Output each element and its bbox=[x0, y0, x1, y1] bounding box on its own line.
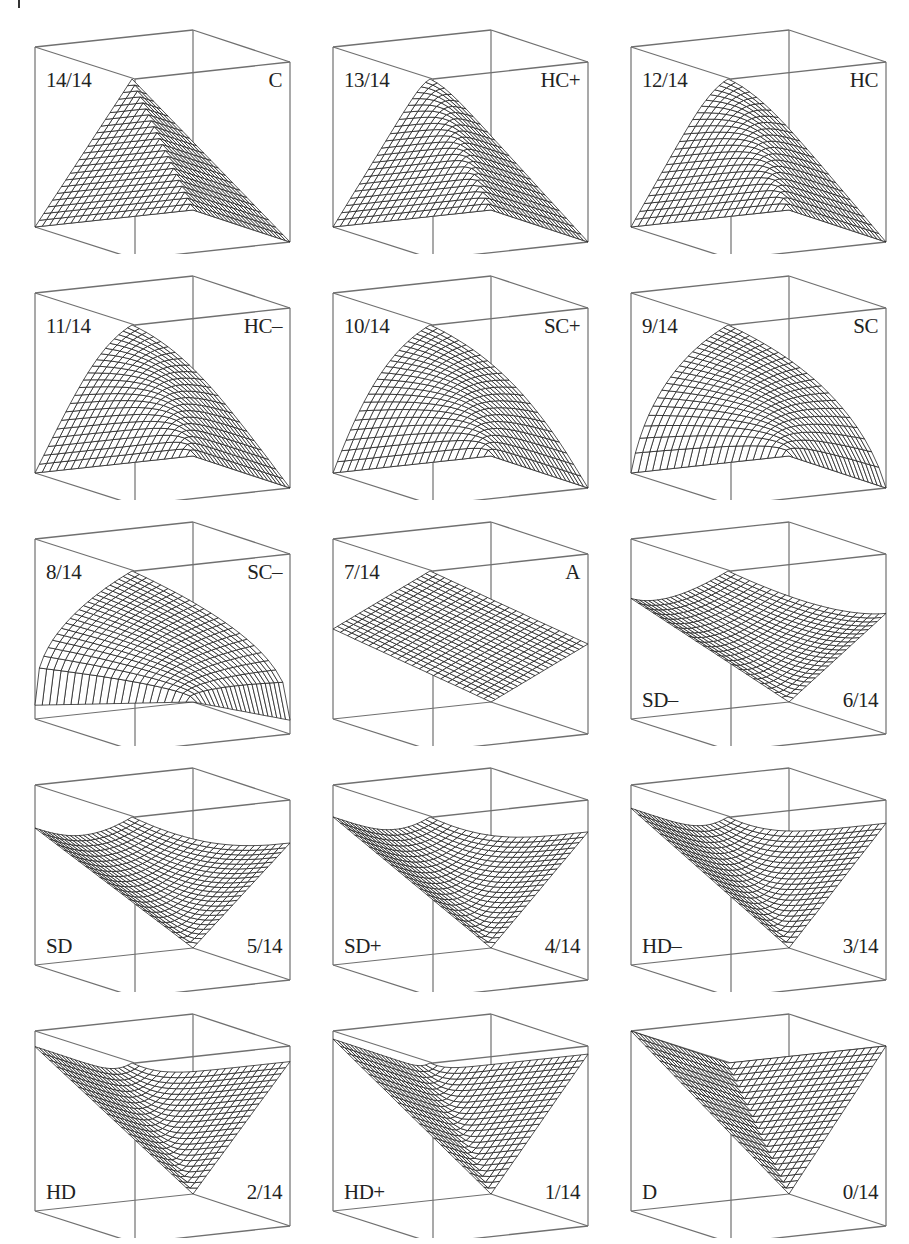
panel-name: SC bbox=[853, 316, 878, 337]
panel-name: HD bbox=[46, 1182, 75, 1203]
box-edge bbox=[631, 965, 731, 992]
box-edge bbox=[193, 522, 290, 554]
box-edge bbox=[333, 30, 491, 47]
surface-mesh bbox=[35, 1047, 290, 1194]
box-edge bbox=[35, 276, 193, 293]
surface-plot bbox=[306, 254, 604, 500]
panel-name: HC+ bbox=[540, 70, 580, 91]
box-edge bbox=[631, 30, 789, 47]
box-edge bbox=[491, 768, 588, 800]
surface-panel: 14/14C bbox=[8, 8, 306, 254]
surface-mesh bbox=[333, 1039, 588, 1194]
surface-panel: 8/14SC– bbox=[8, 500, 306, 746]
box-edge bbox=[35, 30, 193, 47]
panel-name: HC– bbox=[244, 316, 282, 337]
surface-panel: HD2/14 bbox=[8, 992, 306, 1238]
surface-plot bbox=[306, 8, 604, 254]
box-edge bbox=[631, 719, 731, 746]
panel-name: HD+ bbox=[344, 1182, 385, 1203]
surface-mesh bbox=[35, 817, 290, 948]
surface-mesh bbox=[35, 571, 290, 720]
surface-mesh bbox=[631, 571, 886, 702]
panel-name: HD– bbox=[642, 936, 681, 957]
panel-fraction: 4/14 bbox=[545, 936, 580, 957]
surface-panel: D0/14 bbox=[604, 992, 902, 1238]
surface-mesh bbox=[631, 325, 886, 488]
surface-plot bbox=[8, 500, 306, 746]
surface-panel: 10/14SC+ bbox=[306, 254, 604, 500]
box-edge bbox=[333, 1014, 491, 1031]
panel-fraction: 6/14 bbox=[843, 690, 878, 711]
box-edge bbox=[333, 1211, 433, 1238]
panel-fraction: 13/14 bbox=[344, 70, 389, 91]
surface-panel: HD–3/14 bbox=[604, 746, 902, 992]
panel-fraction: 10/14 bbox=[344, 316, 389, 337]
surface-mesh bbox=[631, 808, 886, 948]
box-edge bbox=[135, 62, 290, 79]
box-edge bbox=[333, 965, 433, 992]
box-edge bbox=[193, 1014, 290, 1046]
box-edge bbox=[35, 785, 135, 817]
panel-name: SC– bbox=[247, 562, 282, 583]
surface-panel: 13/14HC+ bbox=[306, 8, 604, 254]
box-edge bbox=[35, 227, 135, 254]
surface-mesh bbox=[333, 79, 588, 242]
surface-mesh bbox=[631, 79, 886, 242]
box-edge bbox=[731, 800, 886, 817]
panel-fraction: 11/14 bbox=[46, 316, 91, 337]
box-edge bbox=[789, 276, 886, 308]
page-corner-mark bbox=[18, 0, 20, 8]
box-edge bbox=[333, 719, 433, 746]
box-edge bbox=[631, 768, 789, 785]
box-edge bbox=[789, 768, 886, 800]
surface-plot bbox=[8, 254, 306, 500]
box-edge bbox=[333, 227, 433, 254]
box-edge bbox=[193, 30, 290, 62]
surface-panel-grid: 14/14C 13/14HC+ 12/14HC 11/14HC– 10/14SC… bbox=[8, 8, 908, 1238]
box-edge bbox=[135, 1226, 290, 1238]
surface-mesh bbox=[35, 79, 290, 242]
box-edge bbox=[333, 785, 433, 817]
panel-fraction: 14/14 bbox=[46, 70, 91, 91]
panel-name: HC bbox=[850, 70, 878, 91]
box-edge bbox=[433, 980, 588, 992]
box-edge bbox=[631, 1014, 789, 1031]
box-edge bbox=[731, 554, 886, 571]
box-edge bbox=[631, 276, 789, 293]
box-edge bbox=[433, 242, 588, 254]
box-edge bbox=[35, 965, 135, 992]
box-edge bbox=[135, 980, 290, 992]
box-edge bbox=[491, 1014, 588, 1046]
box-edge bbox=[333, 522, 491, 539]
panel-name: SC+ bbox=[544, 316, 580, 337]
surface-panel: 7/14A bbox=[306, 500, 604, 746]
box-edge bbox=[631, 785, 731, 817]
panel-name: SD bbox=[46, 936, 72, 957]
box-edge bbox=[789, 522, 886, 554]
panel-fraction: 7/14 bbox=[344, 562, 379, 583]
box-edge bbox=[35, 1014, 193, 1031]
panel-name: A bbox=[565, 562, 580, 583]
surface-plot bbox=[604, 8, 902, 254]
panel-name: SD– bbox=[642, 690, 678, 711]
box-edge bbox=[193, 768, 290, 800]
surface-panel: 9/14SC bbox=[604, 254, 902, 500]
box-edge bbox=[731, 734, 886, 746]
box-edge bbox=[491, 276, 588, 308]
panel-name: D bbox=[642, 1182, 657, 1203]
box-edge bbox=[433, 488, 588, 500]
box-edge bbox=[789, 30, 886, 62]
panel-name: C bbox=[268, 70, 282, 91]
box-edge bbox=[731, 488, 886, 500]
box-edge bbox=[35, 473, 135, 500]
box-edge bbox=[433, 734, 588, 746]
surface-mesh bbox=[631, 1031, 886, 1194]
mesh-cell bbox=[128, 79, 140, 86]
surface-panel: 11/14HC– bbox=[8, 254, 306, 500]
panel-fraction: 0/14 bbox=[843, 1182, 878, 1203]
box-edge bbox=[631, 1211, 731, 1238]
box-edge bbox=[135, 1046, 290, 1063]
panel-fraction: 1/14 bbox=[545, 1182, 580, 1203]
box-edge bbox=[491, 30, 588, 62]
surface-mesh bbox=[333, 817, 588, 948]
